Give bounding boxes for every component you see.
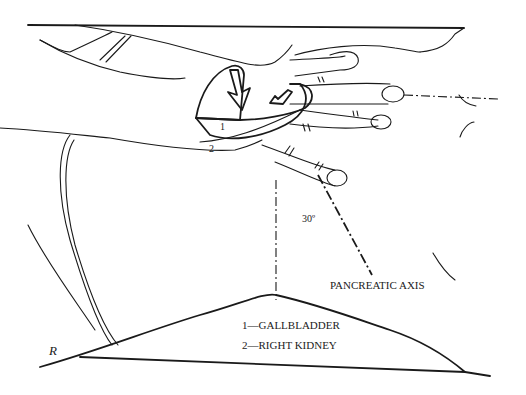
artist-signature: R — [49, 343, 57, 359]
right-flank-contour — [433, 253, 455, 280]
top-right-contour — [420, 28, 464, 52]
arrow-pressure-icon — [270, 90, 292, 104]
pancreatic-axis-label: PANCREATIC AXIS — [330, 279, 425, 291]
abdomen-mound — [40, 295, 465, 372]
finger-index — [290, 52, 358, 76]
right-upper-curve — [459, 95, 476, 106]
bottom-baseline — [80, 357, 490, 376]
right-lower-curve — [460, 122, 474, 137]
knuckle-marks — [285, 77, 358, 170]
sleeve-stripes — [100, 36, 131, 62]
arm-upper-contour — [75, 25, 292, 65]
legend-gallbladder: 1—GALLBLADDER — [242, 319, 340, 331]
fingertip-thumb — [327, 170, 347, 186]
horizontal-axis-line — [404, 95, 498, 99]
pancreatic-axis-line — [318, 175, 372, 275]
hand-palpation-drawing — [0, 0, 526, 395]
gallbladder-lower — [196, 84, 306, 138]
legend-right-kidney: 2—RIGHT KIDNEY — [242, 339, 337, 351]
gallbladder-outline — [196, 84, 312, 120]
sleeve-line — [40, 32, 112, 52]
angle-label: 30º — [302, 213, 315, 224]
organ-label-1: 1 — [220, 121, 225, 132]
organ-label-2: 2 — [209, 143, 214, 154]
finger-thumb — [262, 145, 335, 186]
arrow-down-icon — [228, 70, 250, 110]
illustration-canvas: 2 1 30º PANCREATIC AXIS 1—GALLBLADDER 2—… — [0, 0, 526, 395]
torso-line-inner — [66, 140, 118, 345]
fingertip-middle — [382, 86, 404, 102]
fingertip-ring — [371, 115, 391, 129]
forearm-contour — [295, 46, 420, 55]
arm-lower-contour — [40, 40, 185, 79]
torso-line-outer — [60, 135, 112, 345]
